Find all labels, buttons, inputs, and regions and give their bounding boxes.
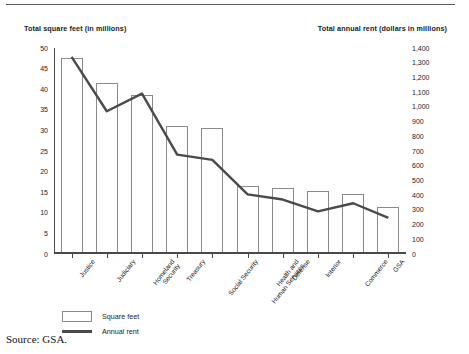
x-axis-line [54,252,406,254]
left-tick-label: 15 [12,189,48,196]
right-tick-label: 900 [412,118,424,125]
left-tick-label: 20 [12,168,48,175]
right-tick-label: 1,200 [412,74,430,81]
x-axis-label: Interior [324,258,342,279]
x-axis-label: Social Security [227,258,260,297]
x-axis-label: Judiciary [115,258,137,283]
right-tick-label: 400 [412,192,424,199]
left-tick-label: 10 [12,209,48,216]
left-tick-label: 25 [12,148,48,155]
right-tick-label: 600 [412,162,424,169]
left-tick-label: 0 [12,251,48,258]
left-tick-label: 5 [12,230,48,237]
x-axis-labels: JusticeJudiciaryHomelandSecurityTreasury… [54,256,406,312]
left-axis-ticks: 05101520253035404550 [6,48,48,254]
right-tick-label: 1,000 [412,103,430,110]
left-tick-label: 30 [12,127,48,134]
line-series [54,48,406,254]
chart-container: Total square feet (in millions) Total an… [6,10,455,333]
right-tick-label: 100 [412,236,424,243]
right-tick-label: 700 [412,148,424,155]
right-tick-label: 0 [412,251,416,258]
plot-area [54,48,406,254]
x-axis-label: Commerce [364,258,390,288]
legend-box-icon [62,311,92,322]
right-tick-label: 200 [412,221,424,228]
left-axis-title: Total square feet (in millions) [24,24,126,33]
source-note: Source: GSA. [6,333,67,345]
right-tick-label: 500 [412,177,424,184]
chart-legend: Square feet Annual rent [62,310,139,340]
right-tick-label: 300 [412,206,424,213]
right-tick-label: 800 [412,133,424,140]
x-axis-label: Justice [77,258,95,279]
left-tick-label: 40 [12,86,48,93]
annual-rent-line [72,57,389,218]
left-tick-label: 50 [12,45,48,52]
legend-label-annual-rent: Annual rent [102,327,139,336]
legend-label-square-feet: Square feet [102,312,139,321]
left-tick-label: 45 [12,65,48,72]
right-tick-label: 1,100 [412,89,430,96]
x-axis-label: Treasury [185,258,207,283]
right-tick-label: 1,300 [412,59,430,66]
top-rule [6,4,455,5]
x-axis-label: HomelandSecurity [152,258,182,291]
right-tick-label: 1,400 [412,45,430,52]
left-tick-label: 35 [12,106,48,113]
right-axis-ticks: 01002003004005006007008009001,0001,1001,… [412,48,468,254]
legend-item-annual-rent: Annual rent [62,325,139,338]
legend-item-square-feet: Square feet [62,310,139,323]
x-axis-label: GSA [392,258,406,274]
right-axis-title: Total annual rent (dollars in millions) [318,24,447,33]
